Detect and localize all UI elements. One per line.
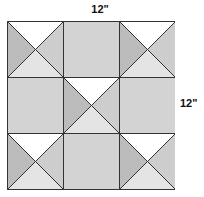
quilt-block-diagram [7,21,175,190]
quilt-block-hourglass [64,78,120,134]
quilt-block-hourglass [120,22,176,78]
quilt-block-hourglass [120,134,176,190]
quilt-block-solid [8,78,64,134]
width-dimension-label: 12" [85,3,115,15]
height-dimension-label: 12" [180,97,197,109]
quilt-block-solid [64,134,120,190]
quilt-block-solid [120,78,176,134]
quilt-block-hourglass [8,134,64,190]
quilt-block-solid [64,22,120,78]
quilt-block-hourglass [8,22,64,78]
